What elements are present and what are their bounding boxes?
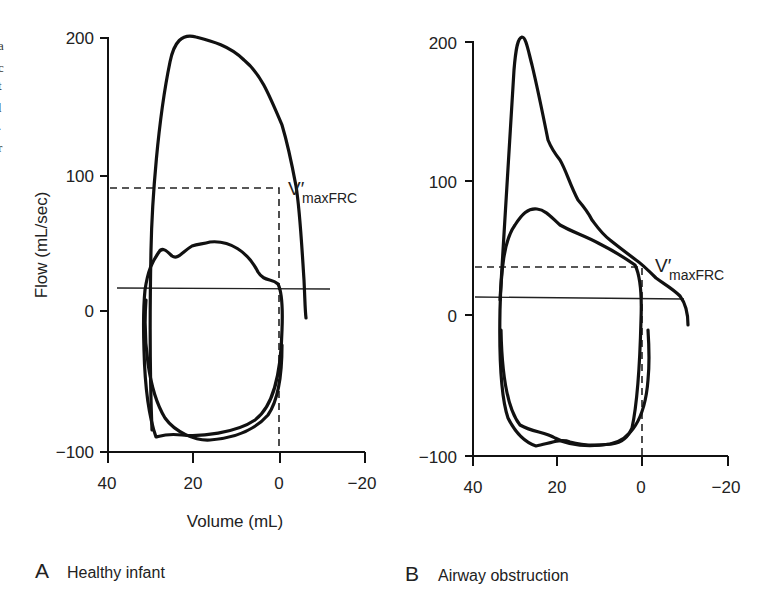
y-tick-label: 0 bbox=[448, 307, 457, 326]
x-tick-label: −20 bbox=[348, 474, 377, 493]
tidal-loop-curve-second bbox=[501, 330, 649, 446]
x-tick-label: 20 bbox=[548, 478, 567, 497]
edge-fragment: r bbox=[0, 140, 3, 155]
x-tick-label: 40 bbox=[98, 474, 117, 493]
panel-a-axes bbox=[100, 38, 365, 463]
x-tick-label: 20 bbox=[184, 474, 203, 493]
x-tick-label: 0 bbox=[636, 478, 645, 497]
edge-fragment: l bbox=[0, 100, 2, 115]
edge-fragment: c bbox=[0, 60, 4, 75]
panel-caption: Healthy infant bbox=[67, 564, 165, 581]
edge-fragment: a bbox=[0, 38, 4, 53]
y-tick-label: −100 bbox=[419, 448, 457, 467]
vmaxfrc-subscript: maxFRC bbox=[669, 267, 724, 283]
reference-line bbox=[475, 297, 684, 299]
edge-fragment: t bbox=[0, 78, 2, 93]
y-tick-label: 100 bbox=[429, 173, 457, 192]
figure-canvas: a c t l . r 200 100 0 −100 40 20 0 −20 F… bbox=[0, 0, 775, 614]
vmaxfrc-subscript: maxFRC bbox=[302, 190, 357, 206]
tidal-loop-curve-second bbox=[145, 300, 282, 440]
y-tick-label: 200 bbox=[66, 29, 94, 48]
forced-expiration-curve bbox=[150, 36, 306, 430]
tidal-loop-curve bbox=[144, 242, 283, 437]
y-tick-label: 0 bbox=[85, 302, 94, 321]
cropped-text-fragments: a c t l . r bbox=[0, 38, 4, 155]
panel-caption: Airway obstruction bbox=[438, 567, 569, 584]
tidal-loop-curve bbox=[500, 209, 641, 446]
edge-fragment: . bbox=[0, 118, 1, 133]
vmaxfrc-guide-dashed bbox=[110, 188, 279, 452]
x-tick-label: 0 bbox=[274, 474, 283, 493]
x-tick-label: −20 bbox=[712, 478, 741, 497]
panel-b-chart: 200 100 0 −100 40 20 0 −20 V′ maxFRC B A… bbox=[405, 34, 740, 585]
y-tick-label: 200 bbox=[429, 34, 457, 53]
panel-letter: B bbox=[405, 562, 419, 585]
x-tick-label: 40 bbox=[464, 478, 483, 497]
panel-letter: A bbox=[35, 559, 49, 582]
x-axis-title: Volume (mL) bbox=[187, 512, 283, 531]
y-axis-title: Flow (mL/sec) bbox=[32, 192, 51, 299]
forced-expiration-curve bbox=[500, 37, 688, 325]
panel-a-chart: 200 100 0 −100 40 20 0 −20 Flow (mL/sec)… bbox=[32, 29, 376, 582]
y-tick-label: −100 bbox=[56, 443, 94, 462]
y-tick-label: 100 bbox=[66, 167, 94, 186]
